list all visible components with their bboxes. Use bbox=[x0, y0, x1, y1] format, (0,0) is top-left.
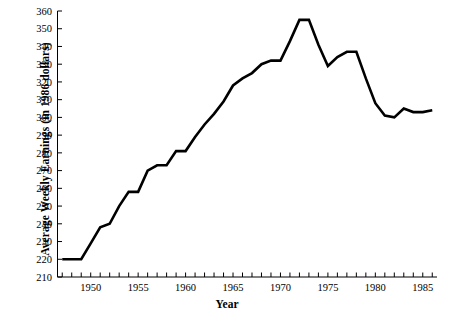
y-tick-label: 250 bbox=[36, 201, 52, 212]
y-tick-label: 360 bbox=[36, 6, 52, 17]
x-tick-label: 1965 bbox=[223, 282, 244, 293]
x-tick-label: 1985 bbox=[412, 282, 433, 293]
chart-container: 2102202302402502602702802903003103203303… bbox=[0, 0, 454, 316]
x-axis-title: Year bbox=[0, 298, 454, 310]
x-tick-label: 1950 bbox=[80, 282, 101, 293]
y-tick-label: 280 bbox=[36, 148, 52, 159]
x-tick-label: 1975 bbox=[317, 282, 338, 293]
y-tick-label: 270 bbox=[36, 165, 52, 176]
y-tick-label: 300 bbox=[36, 112, 52, 123]
x-tick-label: 1960 bbox=[175, 282, 196, 293]
y-tick-label: 340 bbox=[36, 41, 52, 52]
x-tick-label: 1980 bbox=[365, 282, 386, 293]
y-tick-label: 240 bbox=[36, 219, 52, 230]
series-line bbox=[62, 20, 432, 259]
y-tick-label: 320 bbox=[36, 77, 52, 88]
y-tick-label: 330 bbox=[36, 59, 52, 70]
y-tick-label: 290 bbox=[36, 130, 52, 141]
y-axis: 2102202302402502602702802903003103203303… bbox=[36, 6, 62, 283]
y-tick-label: 310 bbox=[36, 94, 52, 105]
y-tick-label: 260 bbox=[36, 183, 52, 194]
x-tick-label: 1970 bbox=[270, 282, 291, 293]
x-tick-label: 1955 bbox=[128, 282, 149, 293]
y-tick-label: 210 bbox=[36, 272, 52, 283]
line-chart: 2102202302402502602702802903003103203303… bbox=[0, 0, 454, 316]
y-tick-label: 350 bbox=[36, 23, 52, 34]
data-series bbox=[62, 20, 432, 259]
y-tick-label: 220 bbox=[36, 254, 52, 265]
x-axis: 19501955196019651970197519801985 bbox=[58, 273, 438, 293]
y-tick-label: 230 bbox=[36, 236, 52, 247]
